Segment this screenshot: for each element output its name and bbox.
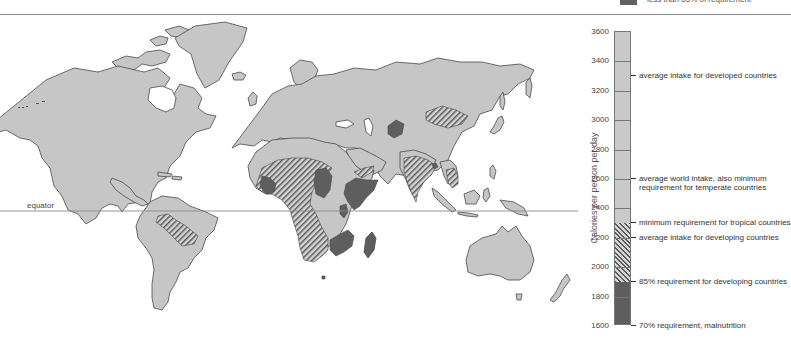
grid-2800 [615,150,630,151]
note-developed-avg: average intake for developed countries [631,71,777,80]
new-guinea [500,200,528,216]
grid-2000 [615,267,630,268]
note-85-percent: 85% requirement for developing countries [631,277,787,286]
grid-3400 [615,61,630,62]
madagascar [364,232,376,258]
japan [490,116,504,134]
tick-label: 3400 [578,56,609,65]
grid-3200 [615,91,630,92]
tick-label: 2400 [578,203,609,212]
world-map [0,18,578,339]
tick-label: 2600 [578,174,609,183]
note-tropical-min: minimum requirement for tropical countri… [631,218,791,227]
tick-label: 3000 [578,115,609,124]
grid-2200 [615,238,630,239]
grid-3000 [615,120,630,121]
band-severe [615,282,630,325]
tick-label: 1800 [578,292,609,301]
note-developing-avg: average intake for developing countries [631,233,779,242]
scale-bar [614,31,631,325]
tick-label: 2200 [578,233,609,242]
equator-label: equator [27,201,54,210]
note-70-percent: 70% requirement, malnutrition [631,321,746,330]
tick-label: 1600 [578,321,609,330]
note-world-avg: average world intake, also minimumrequir… [631,174,767,192]
grid-1800 [615,297,630,298]
south-america [136,196,218,310]
tick-label: 3200 [578,86,609,95]
new-zealand [550,274,570,302]
australia [466,226,534,280]
grid-2400 [615,208,630,209]
tick-label: 3600 [578,27,609,36]
calorie-scale: Calories per person per day 3600 3400 32… [578,0,791,339]
band-deficient [615,223,630,282]
tick-label: 2000 [578,262,609,271]
tick-label: 2800 [578,145,609,154]
hatch-india [404,156,436,202]
axis-title: Calories per person per day [589,108,599,268]
grid-2600 [615,179,630,180]
